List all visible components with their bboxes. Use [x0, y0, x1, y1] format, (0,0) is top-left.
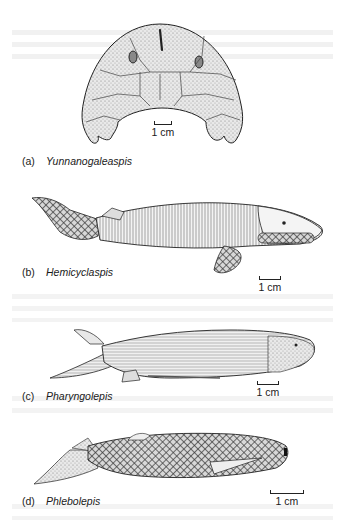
panel-label-d: (d)Phlebolepis [22, 495, 100, 507]
scale-bar-d: 1 cm [262, 490, 312, 507]
phlebolepis-illustration [0, 0, 339, 500]
